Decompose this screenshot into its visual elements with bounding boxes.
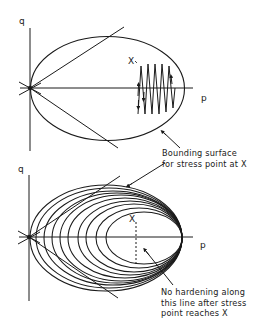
bounding-surface-leader-arrow — [162, 131, 166, 135]
caption-line: No hardening along — [161, 287, 247, 298]
top-p-axis-label: p — [201, 94, 207, 103]
bottom-p-axis-label: p — [200, 241, 206, 250]
caption-line: Bounding surface — [162, 148, 247, 159]
bottom-panel — [18, 163, 193, 301]
origin-point — [27, 235, 31, 239]
no-hardening-caption: No hardening along this line after stres… — [161, 287, 247, 319]
critical-state-line-upper — [30, 27, 124, 88]
caption-line: this line after stress — [161, 298, 247, 309]
top-panel — [19, 27, 193, 151]
nested-yield-surfaces — [30, 185, 182, 291]
bounding-surface-figure: q p X Bounding surface for stress point … — [0, 0, 273, 330]
no-hardening-leader-arrow — [145, 249, 150, 255]
origin-point — [28, 86, 32, 90]
bounding-surface-leader-bottom-arrow — [128, 184, 133, 187]
top-stress-point-label: X — [128, 57, 134, 66]
cyclic-stress-path — [138, 64, 175, 114]
stress-point-x-marker — [135, 61, 137, 63]
bottom-q-axis-label: q — [18, 165, 24, 174]
top-q-axis-label: q — [19, 17, 25, 26]
stress-path-arrow — [171, 76, 172, 84]
caption-line: for stress point at X — [162, 159, 247, 170]
critical-state-line-upper — [29, 176, 120, 237]
caption-line: point reaches X — [161, 308, 247, 319]
stress-path-arrow — [138, 84, 139, 96]
bounding-surface-leader-bottom — [128, 163, 165, 186]
stress-path-arrow — [144, 92, 145, 100]
bounding-surface-caption: Bounding surface for stress point at X — [162, 148, 247, 169]
bottom-stress-point-label: X — [129, 215, 135, 224]
